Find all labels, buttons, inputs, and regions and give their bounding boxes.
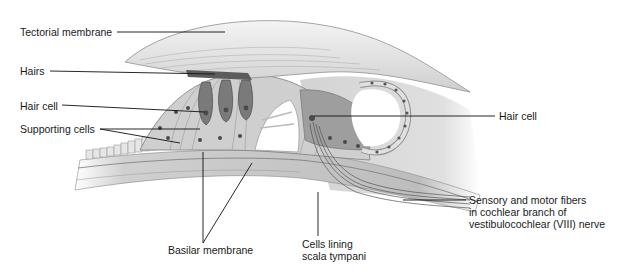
label-cells-lining-scala-tympani: Cells lining scala tympani: [302, 238, 366, 262]
fibers-line-1: Sensory and motor fibers: [469, 194, 605, 206]
organ-of-corti-illustration: [0, 0, 630, 273]
label-hair-cell-right: Hair cell: [499, 110, 537, 122]
label-supporting-cells: Supporting cells: [20, 123, 95, 135]
label-sensory-motor-fibers: Sensory and motor fibers in cochlear bra…: [469, 194, 605, 230]
label-hair-cell-left: Hair cell: [20, 100, 58, 112]
tectorial-membrane-shape: [125, 21, 470, 92]
label-basilar-membrane: Basilar membrane: [168, 244, 253, 256]
label-hairs: Hairs: [20, 65, 45, 77]
cells-lining-line-2: scala tympani: [302, 250, 366, 262]
label-tectorial-membrane: Tectorial membrane: [20, 26, 112, 38]
cells-lining-line-1: Cells lining: [302, 238, 366, 250]
fibers-line-3: vestibulocochlear (VIII) nerve: [469, 218, 605, 230]
fibers-line-2: in cochlear branch of: [469, 206, 605, 218]
